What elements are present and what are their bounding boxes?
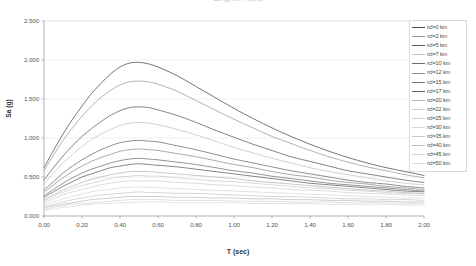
- legend-item-label: rcl=0 km: [427, 23, 447, 32]
- legend-item-label: rcl=50 km: [427, 159, 450, 168]
- legend-item-label: rcl=45 km: [427, 150, 450, 159]
- legend-item[interactable]: rcl=20 km: [412, 96, 464, 105]
- legend-item[interactable]: rcl=2 km: [412, 32, 464, 41]
- legend-item[interactable]: rcl=7 km: [412, 50, 464, 59]
- legend-swatch-line-icon: [412, 109, 425, 110]
- chart-legend: rcl=0 kmrcl=2 kmrcl=5 kmrcl=7 kmrcl=10 k…: [409, 20, 467, 172]
- legend-swatch-line-icon: [412, 154, 425, 155]
- legend-swatch-line-icon: [412, 127, 425, 128]
- legend-item-label: rcl=30 km: [427, 123, 450, 132]
- legend-item[interactable]: rcl=15 km: [412, 78, 464, 87]
- legend-item[interactable]: rcl=12 km: [412, 68, 464, 77]
- x-tick-label: 0.80: [181, 221, 211, 228]
- y-axis-title: Sa (g): [5, 89, 12, 129]
- legend-item[interactable]: rcl=0 km: [412, 23, 464, 32]
- y-tick-label: 1.000: [5, 134, 39, 141]
- legend-item-label: rcl=22 km: [427, 105, 450, 114]
- legend-item[interactable]: rcl=45 km: [412, 150, 464, 159]
- legend-swatch-line-icon: [412, 27, 425, 28]
- legend-item[interactable]: rcl=10 km: [412, 59, 464, 68]
- legend-swatch-line-icon: [412, 54, 425, 55]
- x-tick-label: 0.40: [105, 221, 135, 228]
- legend-item[interactable]: rcl=22 km: [412, 105, 464, 114]
- series-lines: [44, 62, 424, 210]
- legend-item[interactable]: rcl=50 km: [412, 159, 464, 168]
- x-tick-label: 0.60: [143, 221, 173, 228]
- legend-swatch-line-icon: [412, 63, 425, 64]
- legend-item[interactable]: rcl=17 km: [412, 87, 464, 96]
- legend-swatch-line-icon: [412, 36, 425, 37]
- tick-marks: [42, 21, 425, 219]
- legend-swatch-line-icon: [412, 45, 425, 46]
- legend-item-label: rcl=25 km: [427, 114, 450, 123]
- x-tick-label: 1.80: [371, 221, 401, 228]
- legend-item-label: rcl=7 km: [427, 50, 447, 59]
- y-tick-label: 0.500: [5, 173, 39, 180]
- legend-swatch-line-icon: [412, 73, 425, 74]
- legend-item-label: rcl=12 km: [427, 68, 450, 77]
- legend-item[interactable]: rcl=35 km: [412, 132, 464, 141]
- legend-swatch-line-icon: [412, 100, 425, 101]
- x-tick-label: 2.00: [409, 221, 439, 228]
- legend-item[interactable]: rcl=25 km: [412, 114, 464, 123]
- legend-item[interactable]: rcl=30 km: [412, 123, 464, 132]
- legend-item[interactable]: rcl=40 km: [412, 141, 464, 150]
- y-tick-label: 2.000: [5, 56, 39, 63]
- y-tick-label: 2.500: [5, 17, 39, 24]
- x-tick-label: 0.20: [67, 221, 97, 228]
- x-tick-label: 1.40: [295, 221, 325, 228]
- legend-item-label: rcl=40 km: [427, 141, 450, 150]
- x-tick-label: 1.00: [219, 221, 249, 228]
- y-tick-label: 0.000: [5, 212, 39, 219]
- legend-item-label: rcl=20 km: [427, 96, 450, 105]
- legend-swatch-line-icon: [412, 145, 425, 146]
- legend-swatch-line-icon: [412, 136, 425, 137]
- x-tick-label: 0.00: [29, 221, 59, 228]
- legend-item-label: rcl=10 km: [427, 59, 450, 68]
- chart-container: Sa (g) vs. T (sec) 2.5002.0001.5001.0000…: [0, 0, 476, 266]
- legend-item[interactable]: rcl=5 km: [412, 41, 464, 50]
- x-tick-label: 1.20: [257, 221, 287, 228]
- legend-item-label: rcl=17 km: [427, 87, 450, 96]
- x-axis-title: T (sec): [0, 248, 476, 255]
- x-tick-label: 1.60: [333, 221, 363, 228]
- legend-swatch-line-icon: [412, 82, 425, 83]
- legend-swatch-line-icon: [412, 118, 425, 119]
- legend-item-label: rcl=2 km: [427, 32, 447, 41]
- legend-swatch-line-icon: [412, 163, 425, 164]
- plot-frame: [44, 21, 424, 216]
- legend-item-label: rcl=5 km: [427, 41, 447, 50]
- legend-item-label: rcl=15 km: [427, 78, 450, 87]
- gridlines: [44, 21, 424, 177]
- legend-swatch-line-icon: [412, 91, 425, 92]
- legend-item-label: rcl=35 km: [427, 132, 450, 141]
